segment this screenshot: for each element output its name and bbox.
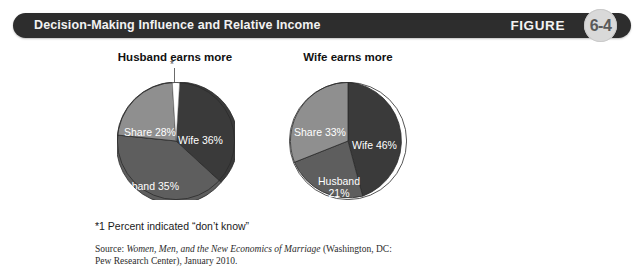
figure-header-bar: Decision-Making Influence and Relative I… (13, 13, 631, 38)
right-slice-label-share: Share 33% (294, 126, 346, 138)
left-slice-label-wife: Wife 36% (178, 134, 223, 146)
right-slice-label-husband-line2: 21% (313, 187, 365, 199)
source-prefix: Source: (95, 244, 126, 254)
figure-word-label: FIGURE (510, 13, 565, 38)
left-slice-label-husband: Husband 35% (113, 180, 179, 192)
footnote-text: *1 Percent indicated “don’t know” (95, 220, 249, 232)
left-chart-title: Husband earns more (112, 51, 238, 63)
source-citation: Source: Women, Men, and the New Economic… (95, 243, 395, 267)
left-slice-label-share: Share 28% (124, 126, 176, 138)
source-title: Women, Men, and the New Economics of Mar… (126, 244, 320, 254)
figure-number-text: 6-4 (584, 9, 617, 42)
right-slice-label-wife: Wife 46% (352, 139, 397, 151)
right-slice-label-husband: Husband 21% (313, 175, 365, 199)
figure-number-badge: 6-4 (584, 9, 617, 42)
page-title: Decision-Making Influence and Relative I… (34, 13, 321, 38)
right-slice-label-husband-line1: Husband (313, 175, 365, 187)
right-chart-title: Wife earns more (285, 51, 411, 63)
